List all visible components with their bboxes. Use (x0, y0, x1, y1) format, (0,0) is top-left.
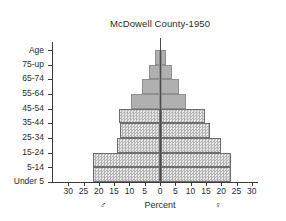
bar-female-65-74 (161, 65, 172, 80)
percent-axis-title: Percent (144, 200, 175, 210)
male-symbol-icon: ♂ (100, 200, 107, 210)
age-label-under-5: Under 5 (14, 177, 44, 186)
bar-female-under-5 (161, 167, 231, 182)
bar-female-15-24 (161, 138, 221, 153)
chart-title: McDowell County-1950 (110, 18, 210, 29)
percent-axis-labels: 30 25 20 15 10 5 0 5 10 15 20 25 30 (0, 186, 286, 198)
age-axis-header: Age (29, 46, 44, 55)
female-symbol-icon: ♀ (215, 200, 222, 210)
x-tick-label: 10 (125, 186, 134, 196)
bar-row-75-up (52, 50, 258, 65)
bar-female-25-34 (161, 123, 210, 138)
bar-row-under-5 (52, 167, 258, 182)
bar-male-25-34 (120, 123, 160, 138)
bar-female-5-14 (161, 153, 231, 168)
bar-female-35-44 (161, 109, 205, 124)
population-pyramid-chart: McDowell County-1950 Age 75-up 65-74 55-… (0, 0, 286, 221)
x-tick-label: 25 (79, 186, 88, 196)
x-tick-label: 30 (247, 186, 256, 196)
age-label-15-24: 15-24 (22, 148, 44, 157)
age-label-65-74: 65-74 (22, 74, 44, 83)
bar-female-75-up (161, 50, 166, 65)
bar-female-45-54 (161, 94, 186, 109)
x-tick-label: 5 (142, 186, 147, 196)
age-label-75-up: 75-up (22, 60, 44, 69)
plot-area (52, 50, 258, 182)
bar-row-15-24 (52, 138, 258, 153)
age-label-55-64: 55-64 (22, 89, 44, 98)
bar-male-15-24 (117, 138, 160, 153)
zero-axis-line (160, 38, 161, 182)
chart-footer: ♂ Percent ♀ (0, 200, 286, 216)
bar-male-5-14 (93, 153, 160, 168)
x-tick-label: 20 (94, 186, 103, 196)
x-tick-label: 20 (216, 186, 225, 196)
x-tick-label: 10 (186, 186, 195, 196)
age-label-35-44: 35-44 (22, 118, 44, 127)
bar-male-45-54 (131, 94, 160, 109)
y-tick (48, 182, 52, 183)
x-tick-label: 5 (173, 186, 178, 196)
age-label-25-34: 25-34 (22, 133, 44, 142)
x-tick-label: 25 (232, 186, 241, 196)
age-label-45-54: 45-54 (22, 104, 44, 113)
bar-row-25-34 (52, 123, 258, 138)
x-tick-label: 15 (201, 186, 210, 196)
bar-row-45-54 (52, 94, 258, 109)
bar-male-35-44 (119, 109, 160, 124)
bar-row-5-14 (52, 153, 258, 168)
x-tick-label: 30 (63, 186, 72, 196)
age-label-5-14: 5-14 (27, 163, 44, 172)
x-tick-label: 15 (109, 186, 118, 196)
bar-male-55-64 (142, 79, 160, 94)
bar-male-65-74 (149, 65, 160, 80)
bar-female-55-64 (161, 79, 179, 94)
bar-male-under-5 (93, 167, 160, 182)
bar-row-65-74 (52, 65, 258, 80)
x-tick-label: 0 (158, 186, 163, 196)
bar-row-55-64 (52, 79, 258, 94)
bar-row-35-44 (52, 109, 258, 124)
